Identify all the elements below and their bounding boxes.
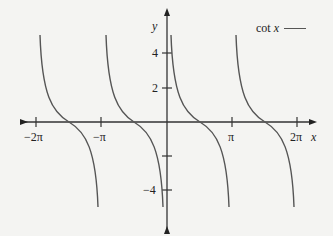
x-tick-label-2pi: 2π [290, 130, 302, 144]
y-axis-label: y [151, 19, 158, 33]
legend: cot x [256, 21, 306, 36]
x-tick-label-pi: π [228, 130, 234, 144]
cot-branch-2 [106, 35, 163, 207]
legend-label: cot x [256, 21, 279, 36]
cot-branch-4 [236, 35, 294, 207]
cot-branch-1 [40, 35, 98, 207]
y-tick-label-4: 4 [152, 46, 158, 60]
y-tick-label-2: 2 [152, 81, 158, 95]
x-tick-label-neg-2pi: −2π [24, 130, 43, 144]
cot-branch-3 [171, 35, 229, 207]
x-tick-label-neg-pi: −π [93, 130, 106, 144]
legend-line-swatch [284, 28, 306, 30]
x-axis-label: x [310, 130, 317, 144]
y-tick-label-neg-4: −4 [143, 183, 156, 197]
